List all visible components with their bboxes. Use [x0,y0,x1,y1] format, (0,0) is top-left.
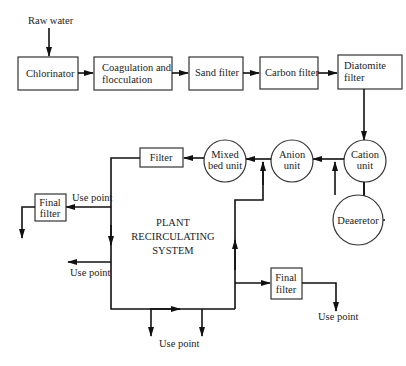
sand-filter-label: Sand filter [195,67,240,78]
carbon-filter-label: Carbon filter [265,67,319,78]
final-filter-right-label-1: Final [275,272,297,283]
mixed-bed-unit-node: Mixed bed unit [204,140,246,182]
arrow-final-filter-right-out [302,283,336,311]
cation-label-1: Cation [351,149,380,160]
mixed-bed-label-1: Mixed [211,149,239,160]
anion-label-1: Anion [279,149,306,160]
system-label-2: RECIRCULATING [131,231,215,242]
arrow-final-filter-left-out [22,207,35,238]
chlorinator-node: Chlorinator [18,57,78,90]
cation-unit-node: Cation unit [344,140,386,182]
coagulation-label-1: Coagulation and [102,62,172,73]
raw-water-label: Raw water [28,15,74,26]
final-filter-right-node: Final filter [271,268,302,299]
use-point-upper-left: Use point [72,192,113,203]
final-filter-left-label-1: Final [39,197,61,208]
final-filter-left-label-2: filter [40,208,61,219]
use-point-mid-left: Use point [70,267,111,278]
cation-label-2: unit [357,160,373,171]
carbon-filter-node: Carbon filter [260,57,319,89]
mixed-bed-label-2: bed unit [208,160,242,171]
coagulation-node: Coagulation and flocculation [94,57,172,90]
deaerator-label: Deaeretor [337,215,379,226]
recirculating-loop-right [235,162,263,309]
system-label-3: SYSTEM [152,245,194,256]
anion-unit-node: Anion unit [271,140,313,182]
water-treatment-flow-diagram: Raw water Chlorinator Coagulation and fl… [0,0,406,366]
diatomite-label-2: filter [344,72,365,83]
filter-label: Filter [150,152,173,163]
use-point-bottom: Use point [159,338,200,349]
final-filter-right-label-2: filter [276,284,297,295]
system-label-1: PLANT [156,217,190,228]
sand-filter-node: Sand filter [189,57,243,90]
final-filter-left-node: Final filter [35,194,66,221]
chlorinator-label: Chlorinator [26,68,75,79]
diatomite-filter-node: Diatomite filter [338,55,402,89]
diatomite-label-1: Diatomite [344,60,386,71]
use-point-right: Use point [318,311,359,322]
anion-label-2: unit [284,160,300,171]
filter-node: Filter [140,148,183,167]
coagulation-label-2: flocculation [102,74,153,85]
deaerator-node: Deaeretor [333,195,383,245]
